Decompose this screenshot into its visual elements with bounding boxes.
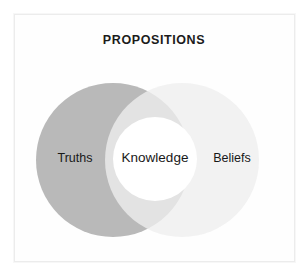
venn-label-beliefs: Beliefs — [196, 151, 268, 165]
venn-label-truths: Truths — [38, 151, 112, 165]
venn-diagram — [0, 0, 308, 279]
venn-label-knowledge: Knowledge — [110, 150, 200, 165]
figure-page: PROPOSITIONS Truths Knowledge Beliefs — [0, 0, 308, 279]
